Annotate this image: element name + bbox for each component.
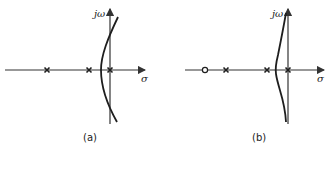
caption-b: (b): [252, 132, 266, 143]
panel-a: jω σ (a): [5, 8, 149, 143]
sigma-label-b: σ: [317, 73, 325, 84]
panel-b: jω σ (b): [185, 8, 325, 143]
zero-marker: [202, 67, 207, 72]
sigma-label-a: σ: [141, 73, 149, 84]
jw-label-a: jω: [92, 8, 105, 19]
jw-label-b: jω: [270, 8, 283, 19]
root-locus-figure: jω σ (a) jω σ (b): [0, 0, 325, 170]
locus-branch-b: [276, 13, 286, 122]
caption-a: (a): [83, 132, 97, 143]
